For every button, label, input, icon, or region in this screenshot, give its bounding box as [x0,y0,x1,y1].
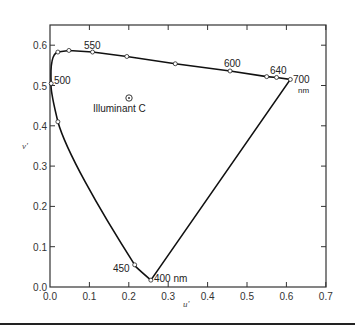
label-700-unit: nm [298,86,309,95]
svg-text:0.2: 0.2 [122,291,136,302]
svg-text:0.2: 0.2 [33,201,47,212]
svg-text:0.5: 0.5 [33,81,47,92]
svg-text:0.1: 0.1 [82,291,96,302]
illuminant-label: Illuminant C [93,103,146,114]
label-450: 450 [113,263,130,274]
svg-text:0.6: 0.6 [279,291,293,302]
label-600: 600 [224,58,241,69]
label-550: 550 [84,40,101,51]
y-axis-label: v' [22,141,29,151]
svg-text:0.3: 0.3 [161,291,175,302]
svg-text:0.4: 0.4 [33,121,47,132]
label-500: 500 [54,75,71,86]
spectrum-locus-curve [51,50,290,280]
svg-text:0.3: 0.3 [33,161,47,172]
svg-text:0.4: 0.4 [201,291,215,302]
chromaticity-chart: 0.00.10.20.30.40.50.60.70.00.10.20.30.40… [0,0,355,332]
wavelength-markers [49,48,292,282]
svg-text:0.5: 0.5 [240,291,254,302]
label-640: 640 [270,65,287,76]
svg-text:0.1: 0.1 [33,242,47,253]
svg-text:0.0: 0.0 [33,282,47,293]
label-700: 700 [293,74,310,85]
label-400: 400 nm [154,273,187,284]
illuminant-c-dot [128,97,130,99]
svg-text:0.7: 0.7 [319,291,333,302]
svg-text:0.6: 0.6 [33,40,47,51]
bottom-rule [0,323,355,325]
x-axis-label: u' [183,299,191,309]
